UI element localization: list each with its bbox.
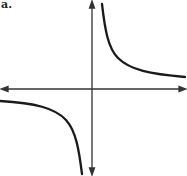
x-axis — [1, 87, 186, 92]
hyperbola-plot — [0, 0, 187, 176]
curve-branch-quadrant-1 — [102, 4, 185, 77]
y-axis — [90, 1, 95, 175]
curve-branch-quadrant-3 — [0, 101, 82, 174]
